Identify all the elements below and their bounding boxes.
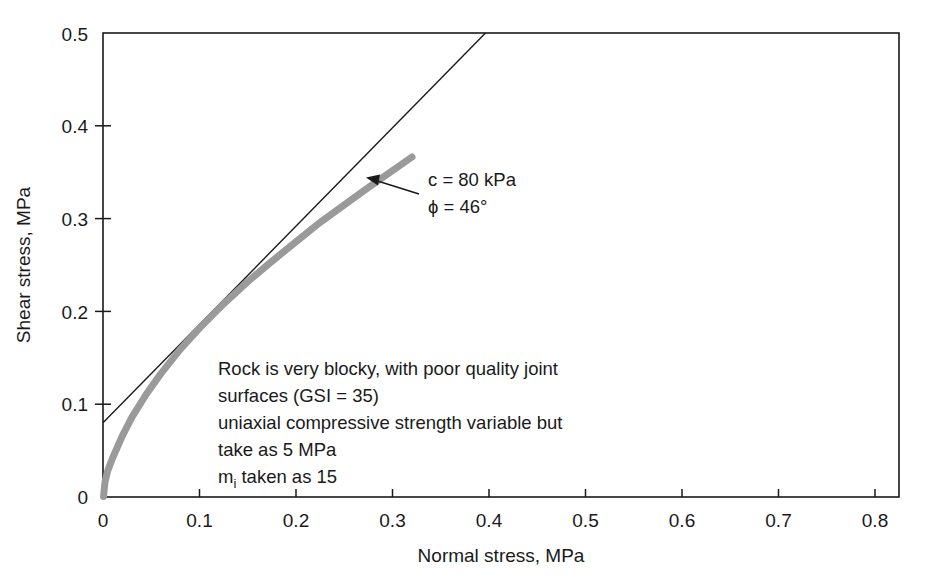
svg-text:ϕ = 46°: ϕ = 46° xyxy=(428,196,487,217)
x-tick-label-6: 0.6 xyxy=(669,510,695,531)
x-tick-label-4: 0.4 xyxy=(476,510,503,531)
rock-desc-line-5: mi taken as 15 xyxy=(218,466,337,491)
mi-rest: taken as 15 xyxy=(236,466,337,487)
y-tick-label-2: 0.2 xyxy=(62,302,88,323)
rock-desc-line-3: uniaxial compressive strength variable b… xyxy=(218,412,562,433)
y-axis-title: Shear stress, MPa xyxy=(13,186,34,343)
annotation-friction-angle: ϕ = 46° xyxy=(428,196,487,217)
phi-symbol: ϕ xyxy=(428,196,438,217)
rock-desc-line-2: surfaces (GSI = 35) xyxy=(218,385,379,406)
y-tick-label-0: 0 xyxy=(77,487,88,508)
x-tick-label-1: 0.1 xyxy=(186,510,212,531)
x-tick-label-2: 0.2 xyxy=(283,510,309,531)
x-tick-label-0: 0 xyxy=(98,510,109,531)
x-axis-title: Normal stress, MPa xyxy=(418,545,585,566)
rock-desc-line-4: take as 5 MPa xyxy=(218,439,337,460)
y-tick-label-1: 0.1 xyxy=(62,394,88,415)
phi-value: = 46° xyxy=(438,196,487,217)
x-tick-label-7: 0.7 xyxy=(765,510,791,531)
x-axis-ticks xyxy=(200,489,876,497)
rock-desc-line-1: Rock is very blocky, with poor quality j… xyxy=(218,358,558,379)
shear-vs-normal-stress-chart: 0 0.1 0.2 0.3 0.4 0.5 0.6 0.7 0.8 0 0.1 … xyxy=(0,0,932,587)
x-tick-label-5: 0.5 xyxy=(572,510,598,531)
y-tick-label-4: 0.4 xyxy=(62,116,89,137)
y-tick-label-3: 0.3 xyxy=(62,209,88,230)
x-tick-label-8: 0.8 xyxy=(862,510,888,531)
annotation-cohesion: c = 80 kPa xyxy=(428,169,517,190)
y-tick-label-5: 0.5 xyxy=(62,24,88,45)
chart-figure: 0 0.1 0.2 0.3 0.4 0.5 0.6 0.7 0.8 0 0.1 … xyxy=(0,0,932,587)
mi-symbol: m xyxy=(218,466,233,487)
x-tick-label-3: 0.3 xyxy=(379,510,405,531)
